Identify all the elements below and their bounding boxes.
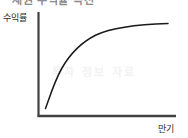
yield-curve-line [46,24,169,109]
yield-curve-figure: 채권 수익률 곡선 투자 정보 자료 수익률 만기 [0,0,188,138]
plot-area [0,0,188,138]
